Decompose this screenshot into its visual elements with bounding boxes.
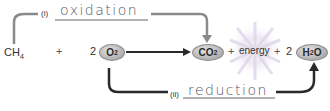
oxidation-step-number: (i) — [41, 9, 48, 18]
energy-label: energy — [239, 46, 270, 56]
oxidation-arrow — [14, 14, 38, 44]
redox-diagram: (i) oxidation CH4 + 2 O2 CO2 + energy + … — [0, 0, 330, 111]
reduction-label: reduction — [188, 82, 268, 98]
arrows-layer — [0, 0, 330, 111]
oxidation-label: oxidation — [60, 2, 138, 18]
reduction-step-number: (ii) — [170, 90, 179, 99]
co2-molecule: CO2 — [192, 44, 224, 61]
h2o-coefficient: 2 — [286, 46, 292, 57]
o2-coefficient: 2 — [90, 46, 96, 57]
plus-sign: + — [274, 46, 280, 57]
h2o-molecule: H2O — [296, 44, 328, 61]
o2-molecule: O2 — [99, 44, 125, 61]
plus-sign: + — [228, 46, 234, 57]
reduction-arrow — [109, 68, 168, 92]
methane-formula: CH4 — [4, 47, 24, 60]
plus-sign: + — [56, 46, 62, 57]
